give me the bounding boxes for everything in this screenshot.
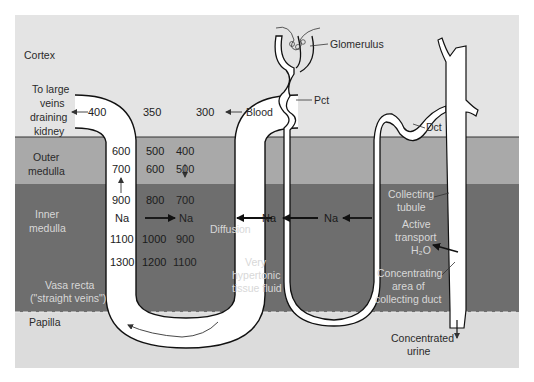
outer-medulla-zone	[15, 137, 519, 184]
na-label: Na	[115, 212, 130, 224]
active-transport-label-2: transport	[395, 231, 437, 243]
outflow-label-3: draining	[30, 111, 68, 123]
value: 600	[112, 145, 130, 157]
h2o-label: H₂O	[411, 244, 431, 256]
outflow-label-1: To large	[32, 83, 70, 95]
value: 1100	[110, 233, 134, 245]
concentrating-label-3: collecting duct	[375, 293, 442, 305]
value: 1100	[173, 256, 197, 268]
tissue-label-2: hypertonic	[232, 269, 280, 281]
value: 900	[112, 194, 130, 206]
value: 500	[176, 163, 194, 175]
concentrating-label-1: Concentrating	[377, 267, 443, 279]
value: 400	[176, 145, 194, 157]
value: 600	[146, 163, 164, 175]
outflow-label-4: kidney	[34, 125, 65, 137]
tissue-label-1: Very	[245, 256, 267, 268]
vasa-recta-label-2: ("straight veins")	[30, 292, 106, 304]
collecting-tubule-label-1: Collecting	[388, 188, 434, 200]
collecting-tubule-label-2: tubule	[397, 201, 426, 213]
value: 1000	[142, 233, 166, 245]
inner-medulla-label-2: medulla	[29, 222, 66, 234]
na-label: Na	[179, 212, 194, 224]
value: 350	[143, 106, 161, 118]
value: 900	[176, 233, 194, 245]
inner-medulla-label-1: Inner	[35, 208, 59, 220]
value: 700	[112, 163, 130, 175]
cortex-label: Cortex	[24, 49, 56, 61]
value: 800	[146, 194, 164, 206]
dct-label: Dct	[426, 121, 442, 133]
kidney-countercurrent-diagram: Cortex To large veins draining kidney Ou…	[0, 0, 534, 382]
value: 1300	[110, 256, 134, 268]
active-transport-label-1: Active	[402, 218, 431, 230]
pct-label: Pct	[314, 94, 329, 106]
papilla-label: Papilla	[29, 316, 61, 328]
vasa-recta-label-1: Vasa recta	[45, 279, 95, 291]
urine-label-2: urine	[407, 345, 431, 357]
outer-medulla-label-2: medulla	[28, 165, 65, 177]
value: 1200	[142, 256, 166, 268]
value: 500	[146, 145, 164, 157]
outer-medulla-label-1: Outer	[33, 151, 60, 163]
urine-label-1: Concentrated	[391, 332, 454, 344]
na-label-left: Na	[262, 212, 277, 224]
diffusion-label: Diffusion	[210, 223, 251, 235]
outflow-label-2: veins	[40, 97, 65, 109]
na-label-right: Na	[324, 212, 339, 224]
glomerulus-label: Glomerulus	[330, 38, 384, 50]
tissue-label-3: tissue fluid	[232, 282, 282, 294]
concentrating-label-2: area of	[392, 280, 425, 292]
value: 700	[176, 194, 194, 206]
blood-label: Blood	[246, 106, 273, 118]
value-400: 400	[88, 106, 106, 118]
value: 300	[196, 106, 214, 118]
